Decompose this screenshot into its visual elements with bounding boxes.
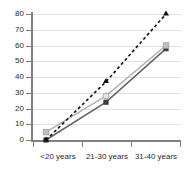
series-light-circle-marker-2	[163, 43, 169, 49]
series-light-circle-marker-1	[103, 93, 109, 99]
line-chart: 80 70 60 50 40 30 20 10 0 <20 years 21-3…	[0, 0, 187, 173]
series-layer	[0, 0, 187, 173]
series-light-circle-marker-0	[43, 129, 49, 135]
series-light-circle-group	[43, 43, 169, 135]
series-dashed-triangle-marker-2	[163, 10, 169, 15]
series-light-circle-line	[46, 46, 166, 133]
series-dark-diamond-marker-1	[103, 100, 108, 105]
